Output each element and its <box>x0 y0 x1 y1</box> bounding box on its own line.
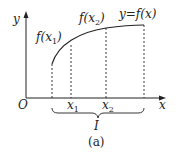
y-axis-label: y <box>12 12 20 26</box>
x-axis-label: x <box>159 98 166 112</box>
interval-brace <box>52 108 144 118</box>
interval-label: I <box>93 119 99 133</box>
x1-label: x1 <box>67 98 79 114</box>
figure-caption: (a) <box>88 135 105 149</box>
function-curve <box>52 25 144 64</box>
x2-label: x2 <box>102 98 114 114</box>
curve-label: y=f(x) <box>118 7 157 21</box>
y-axis-arrow-icon <box>24 11 29 18</box>
f-x2-label: f(x2) <box>78 11 105 27</box>
function-interval-diagram: y O x x1 x2 f(x1) f(x2) y=f(x) I (a) <box>0 0 179 154</box>
f-x1-label: f(x1) <box>35 30 62 46</box>
origin-label: O <box>18 98 28 112</box>
